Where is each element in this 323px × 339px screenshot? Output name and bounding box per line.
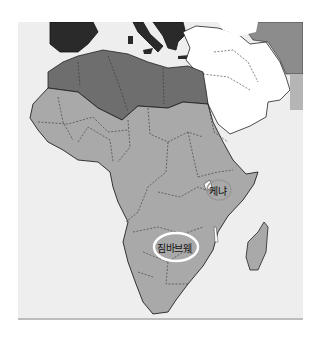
madagascar bbox=[246, 222, 268, 270]
east-lower bbox=[290, 74, 303, 110]
sicily bbox=[143, 48, 153, 54]
iberia bbox=[50, 22, 98, 52]
kenya-label: 케냐 bbox=[209, 183, 226, 198]
zimbabwe-label: 짐바브웨 bbox=[157, 240, 191, 255]
africa-map bbox=[18, 22, 303, 318]
sardinia bbox=[128, 36, 133, 44]
map-frame: 케냐 짐바브웨 bbox=[18, 22, 303, 320]
